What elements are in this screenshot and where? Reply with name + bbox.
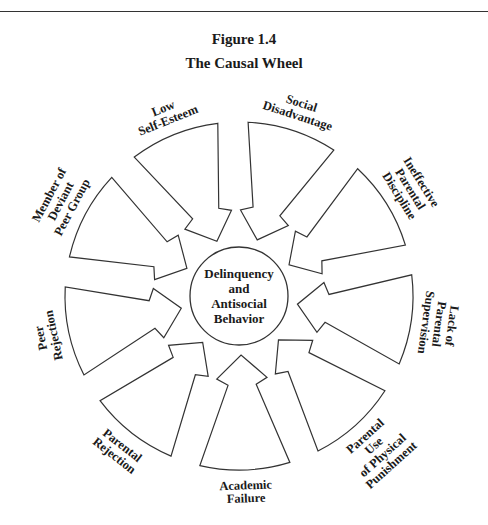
arrow-peer-rejection	[65, 287, 181, 375]
label-lack-of-parental-supervision: Lack ofParentalSupervision	[415, 290, 463, 358]
hub-label: DelinquencyandAntisocialBehavior	[204, 266, 274, 326]
arrow-lack-of-parental-supervision	[297, 275, 413, 364]
label-peer-rejection: PeerRejection	[29, 309, 66, 364]
center-hub: DelinquencyandAntisocialBehavior	[190, 247, 288, 345]
causal-wheel-diagram: Member ofDeviantPeer GroupLowSelf-Esteem…	[0, 0, 488, 525]
label-academic-failure: AcademicFailure	[219, 477, 273, 506]
